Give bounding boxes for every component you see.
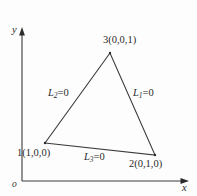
- triangle-outline: [45, 53, 155, 155]
- edge-label-L3: L3=0: [84, 152, 105, 164]
- y-axis-arrowhead: [19, 27, 25, 36]
- diagram-vector-layer: [0, 0, 197, 196]
- vertex-label-1: 1(1,0,0): [17, 148, 50, 159]
- vertex-label-2: 2(0,1,0): [129, 159, 162, 170]
- origin-label: o: [12, 180, 17, 190]
- edge-label-L2-equals: =0: [58, 87, 69, 98]
- vertex-dot-3: [109, 52, 111, 54]
- vertex-label-3: 3(0,0,1): [103, 35, 136, 46]
- figure-canvas: y x o 3(0,0,1) 1(1,0,0) 2(0,1,0) L2=0 L1…: [0, 0, 197, 196]
- vertex-dot-2: [154, 154, 156, 156]
- edge-label-L1: L1=0: [133, 88, 154, 100]
- scan-artifact: [22, 10, 28, 22]
- y-axis-label: y: [12, 25, 17, 36]
- vertex-dot-1: [44, 142, 46, 144]
- edge-label-L2: L2=0: [48, 88, 69, 100]
- x-axis-label: x: [182, 183, 187, 194]
- edge-label-L3-equals: =0: [94, 151, 105, 162]
- edge-label-L1-equals: =0: [143, 87, 154, 98]
